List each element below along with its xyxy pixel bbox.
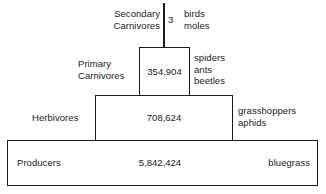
herbivores-label: Herbivores (32, 112, 92, 124)
primary-carnivores-organisms: spiders ants beetles (194, 52, 264, 87)
secondary-carnivores-organisms: birds moles (184, 8, 254, 31)
primary-carnivores-label: Primary Carnivores (78, 58, 136, 81)
producers-organisms: bluegrass (250, 157, 310, 169)
producers-label: Producers (17, 157, 87, 169)
primary-carnivores-value: 354,904 (140, 66, 189, 78)
producers-value: 5,842,424 (110, 157, 210, 169)
herbivores-value: 708,624 (96, 112, 232, 124)
pyramid-of-numbers-diagram: Secondary Carnivores 3 birds moles Prima… (0, 0, 326, 194)
herbivores-organisms: grasshoppers aphids (238, 105, 324, 128)
secondary-carnivores-label: Secondary Carnivores (78, 8, 160, 31)
secondary-carnivores-value: 3 (168, 14, 180, 26)
secondary-carnivores-bar (163, 3, 165, 49)
